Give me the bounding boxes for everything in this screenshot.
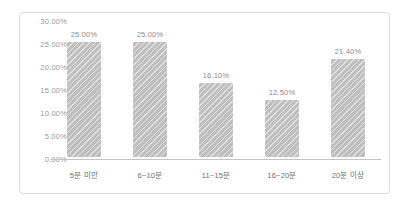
- bar[interactable]: [67, 42, 101, 157]
- x-axis-category-label: 6~10분: [117, 169, 183, 180]
- x-axis-category-label: 20분 이상: [315, 169, 381, 180]
- bar[interactable]: [133, 42, 167, 157]
- bar-slot: 21.40%: [315, 21, 381, 157]
- bar-slot: 25.00%: [117, 21, 183, 157]
- x-axis-category-label: 16~20분: [249, 169, 315, 180]
- bar-series: 25.00%25.00%16.10%12.50%21.40%: [51, 21, 381, 157]
- x-axis-category-label: 11~15분: [183, 169, 249, 180]
- bar-slot: 16.10%: [183, 21, 249, 157]
- bar[interactable]: [265, 100, 299, 158]
- x-axis-category-label: 5분 미만: [51, 169, 117, 180]
- chart-frame: 0.00%5.00%10.00%15.00%20.00%25.00%30.00%…: [19, 12, 390, 194]
- bar[interactable]: [199, 83, 233, 157]
- bar[interactable]: [331, 59, 365, 157]
- x-axis-category-labels: 5분 미만6~10분11~15분16~20분20분 이상: [51, 163, 381, 185]
- bar-value-label: 25.00%: [71, 30, 98, 39]
- bar-value-label: 12.50%: [269, 88, 296, 97]
- x-axis-baseline: [51, 159, 381, 160]
- bar-value-label: 25.00%: [137, 30, 164, 39]
- bar-slot: 25.00%: [51, 21, 117, 157]
- chart-plot-area: 0.00%5.00%10.00%15.00%20.00%25.00%30.00%…: [20, 13, 389, 193]
- bar-value-label: 16.10%: [203, 71, 230, 80]
- bar-slot: 12.50%: [249, 21, 315, 157]
- bar-value-label: 21.40%: [335, 47, 362, 56]
